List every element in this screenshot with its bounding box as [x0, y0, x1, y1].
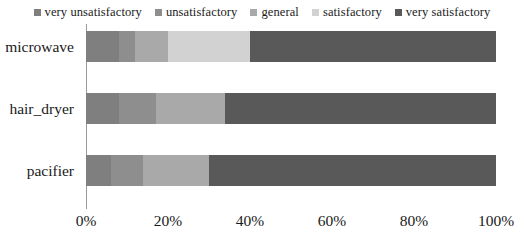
x-axis-tick-labels: 0%20%40%60%80%100%: [0, 212, 524, 238]
bar-segment[interactable]: [86, 155, 111, 186]
bar-segment[interactable]: [86, 93, 119, 124]
stacked-bar-chart: very unsatisfactoryunsatisfactorygeneral…: [0, 0, 524, 243]
legend-swatch-icon: [312, 9, 319, 16]
legend-swatch-icon: [250, 9, 257, 16]
bar-segment[interactable]: [209, 155, 496, 186]
y-axis-category-labels: microwavehair_dryerpacifier: [0, 24, 80, 209]
bar-row: [86, 93, 496, 124]
legend-item[interactable]: satisfactory: [312, 6, 382, 19]
bar-segment[interactable]: [143, 155, 209, 186]
plot-area: [86, 24, 496, 209]
bar-row: [86, 31, 496, 62]
y-axis-label: pacifier: [27, 163, 74, 179]
x-axis-tick-label: 0%: [76, 212, 97, 230]
x-axis-tick-label: 100%: [478, 212, 514, 230]
x-axis-tick-label: 20%: [154, 212, 182, 230]
bar-segment[interactable]: [225, 93, 496, 124]
legend-item[interactable]: very unsatisfactory: [34, 6, 142, 19]
legend-swatch-icon: [155, 9, 162, 16]
stacked-bar: [86, 93, 496, 124]
bar-segment[interactable]: [119, 31, 135, 62]
x-axis-tick-label: 60%: [318, 212, 346, 230]
x-axis-tick-label: 40%: [236, 212, 264, 230]
bar-segment[interactable]: [119, 93, 156, 124]
legend-label: unsatisfactory: [166, 6, 238, 19]
x-axis-tick-label: 80%: [400, 212, 428, 230]
chart-legend: very unsatisfactoryunsatisfactorygeneral…: [0, 3, 524, 21]
bar-segment[interactable]: [86, 31, 119, 62]
bar-segment[interactable]: [156, 93, 226, 124]
y-axis-label: microwave: [5, 39, 74, 55]
bar-segment[interactable]: [168, 31, 250, 62]
stacked-bar: [86, 31, 496, 62]
legend-item[interactable]: unsatisfactory: [155, 6, 238, 19]
bar-segment[interactable]: [250, 31, 496, 62]
legend-label: satisfactory: [323, 6, 382, 19]
legend-label: general: [261, 6, 298, 19]
bar-segment[interactable]: [135, 31, 168, 62]
stacked-bar: [86, 155, 496, 186]
bar-segment[interactable]: [111, 155, 144, 186]
legend-swatch-icon: [34, 9, 41, 16]
legend-label: very satisfactory: [406, 6, 491, 19]
y-axis-label: hair_dryer: [9, 101, 74, 117]
legend-swatch-icon: [395, 9, 402, 16]
legend-item[interactable]: very satisfactory: [395, 6, 491, 19]
legend-item[interactable]: general: [250, 6, 298, 19]
bar-row: [86, 155, 496, 186]
legend-label: very unsatisfactory: [45, 6, 142, 19]
